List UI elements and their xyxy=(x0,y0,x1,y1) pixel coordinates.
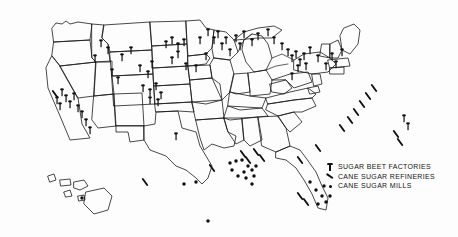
dot-icon xyxy=(254,164,258,168)
dot-icon xyxy=(206,219,210,223)
legend-item-sugar-beet-factories: SUGAR BEET FACTORIES xyxy=(326,162,452,172)
dot-icon xyxy=(252,174,256,178)
dot-icon xyxy=(308,180,312,184)
pin-icon xyxy=(326,162,338,172)
dot-icon xyxy=(316,202,320,206)
dot-icon xyxy=(326,181,338,191)
dot-icon xyxy=(182,182,186,186)
legend-item-cane-sugar-refineries: CANE SUGAR REFINERIES xyxy=(326,172,452,182)
dot-icon xyxy=(80,196,84,200)
dot-icon xyxy=(246,164,250,168)
map-legend: SUGAR BEET FACTORIES CANE SUGAR REFINERI… xyxy=(326,162,452,191)
dot-icon xyxy=(194,180,198,184)
dot-icon xyxy=(244,176,248,180)
dot-icon xyxy=(240,158,244,162)
slash-icon xyxy=(326,172,338,182)
sugar-industry-map-figure: SUGAR BEET FACTORIES CANE SUGAR REFINERI… xyxy=(0,0,458,237)
dot-icon xyxy=(236,174,240,178)
dot-icon xyxy=(314,188,318,192)
dot-icon xyxy=(242,170,246,174)
dot-icon xyxy=(320,194,324,198)
us-map-drawing xyxy=(0,0,458,237)
legend-label-sugar-beet-factories: SUGAR BEET FACTORIES xyxy=(338,162,431,172)
legend-label-cane-sugar-refineries: CANE SUGAR REFINERIES xyxy=(338,172,435,182)
dot-icon xyxy=(234,159,238,163)
dot-icon xyxy=(328,194,332,198)
dot-icon xyxy=(250,168,254,172)
dot-icon xyxy=(228,161,232,165)
legend-label-cane-sugar-mills: CANE SUGAR MILLS xyxy=(338,181,412,191)
legend-item-cane-sugar-mills: CANE SUGAR MILLS xyxy=(326,181,452,191)
dot-icon xyxy=(324,200,328,204)
dot-icon xyxy=(230,168,234,172)
dot-icon xyxy=(250,182,254,186)
